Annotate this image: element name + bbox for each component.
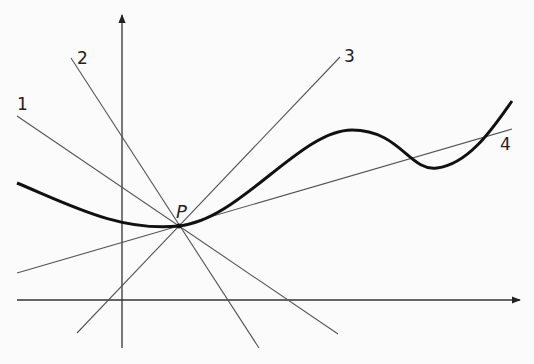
line-label-1: 1	[17, 94, 28, 114]
tangent-lines-diagram: P 1234	[0, 0, 534, 364]
function-curve	[17, 101, 512, 227]
secant-lines	[17, 57, 512, 348]
line-3	[77, 57, 340, 333]
point-p-label: P	[176, 201, 187, 222]
line-label-3: 3	[344, 46, 355, 66]
line-label-4: 4	[500, 134, 511, 154]
line-label-2: 2	[77, 48, 88, 68]
point-p-marker	[177, 224, 182, 229]
line-4	[17, 129, 512, 273]
line-labels: 1234	[17, 46, 511, 154]
